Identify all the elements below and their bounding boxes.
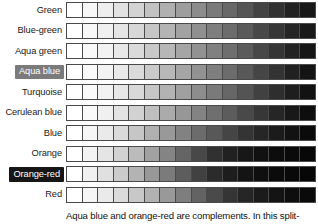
value-swatch [238,44,254,58]
value-swatch [207,85,223,99]
value-swatch [238,147,254,161]
value-swatch [254,24,270,38]
value-swatch [83,147,99,161]
value-swatch [98,106,114,120]
value-swatch [176,167,192,181]
value-swatch [300,65,315,79]
value-swatch [192,167,208,181]
value-swatch [269,44,285,58]
value-swatch [269,188,285,202]
value-swatch [129,44,145,58]
value-scale-cell [64,0,318,21]
hue-label-cell: Orange [0,144,64,165]
value-swatch [300,85,315,99]
value-swatch [114,85,130,99]
value-swatch [207,3,223,17]
value-swatch [269,106,285,120]
value-swatch [129,3,145,17]
value-swatch [238,85,254,99]
value-swatch [254,188,270,202]
value-swatch [176,106,192,120]
value-swatch [114,65,130,79]
value-swatch [223,167,239,181]
value-scale-chart: GreenBlue-greenAqua greenAqua blueTurquo… [0,0,318,209]
value-swatch [83,188,99,202]
value-swatch [176,44,192,58]
value-swatch [269,65,285,79]
value-swatch [176,126,192,140]
figure-container: GreenBlue-greenAqua greenAqua blueTurquo… [0,0,318,224]
value-swatch [254,167,270,181]
hue-row: Blue-green [0,21,318,42]
value-swatch [285,65,301,79]
value-swatch [83,85,99,99]
value-swatch [254,3,270,17]
hue-row: Aqua blue [0,62,318,83]
hue-label-cell: Cerulean blue [0,103,64,124]
value-swatch [254,85,270,99]
figure-caption: Aqua blue and orange-red are complements… [66,209,316,222]
value-swatch [238,188,254,202]
value-swatch [207,65,223,79]
hue-label-aqua-blue: Aqua blue [15,65,64,80]
value-swatch [145,44,161,58]
value-scale-strip [66,125,316,141]
value-swatch [254,106,270,120]
value-swatch [145,24,161,38]
value-swatch [285,85,301,99]
value-scale-strip [66,23,316,39]
value-swatch [98,167,114,181]
value-swatch [192,44,208,58]
value-swatch [300,126,315,140]
value-swatch [269,147,285,161]
value-swatch [160,85,176,99]
hue-row: Cerulean blue [0,103,318,124]
value-swatch [145,147,161,161]
hue-label-blue-green: Blue-green [16,24,64,39]
value-swatch [238,65,254,79]
hue-label-cell: Green [0,0,64,21]
value-scale-strip [66,187,316,203]
value-swatch [238,24,254,38]
value-swatch [223,65,239,79]
value-swatch [160,147,176,161]
value-swatch [254,147,270,161]
value-swatch [285,24,301,38]
value-swatch [223,44,239,58]
value-swatch [192,85,208,99]
value-swatch [83,106,99,120]
hue-row: Blue [0,123,318,144]
value-scale-strip [66,166,316,182]
hue-label-orange-red: Orange-red [9,167,64,182]
value-scale-strip [66,105,316,121]
value-swatch [238,167,254,181]
value-swatch [192,126,208,140]
value-scale-cell [64,123,318,144]
value-swatch [114,44,130,58]
value-swatch [67,3,83,17]
hue-label-cell: Turquoise [0,82,64,103]
value-scale-strip [66,2,316,18]
value-swatch [83,44,99,58]
value-swatch [192,3,208,17]
value-swatch [145,126,161,140]
value-scale-cell [64,185,318,206]
hue-row: Turquoise [0,82,318,103]
value-swatch [160,188,176,202]
value-swatch [238,3,254,17]
hue-row: Orange [0,144,318,165]
hue-label-aqua-green: Aqua green [13,44,64,59]
value-swatch [223,147,239,161]
value-swatch [83,24,99,38]
value-scale-cell [64,82,318,103]
value-swatch [285,106,301,120]
value-swatch [160,106,176,120]
value-swatch [207,126,223,140]
hue-label-cell: Red [0,185,64,206]
value-swatch [160,3,176,17]
value-swatch [98,147,114,161]
value-swatch [300,44,315,58]
value-swatch [129,24,145,38]
value-scale-cell [64,144,318,165]
value-swatch [160,44,176,58]
